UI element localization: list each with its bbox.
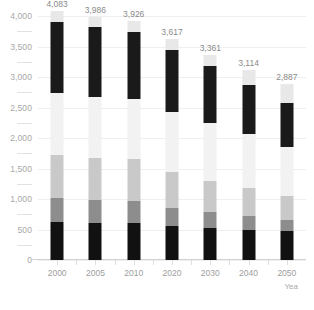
y-tick-minor [17,92,32,93]
bar-value-label: 4,083 [47,0,68,9]
bar-segment[interactable] [280,147,293,196]
bar-segment[interactable] [204,55,217,66]
y-tick-label: 2,500 [10,103,32,113]
bar-segment[interactable] [242,85,255,134]
bar-segment[interactable] [204,228,217,260]
bar-segment[interactable] [204,212,217,228]
bar-segment[interactable] [51,22,64,92]
bar-value-label: 2,887 [276,72,297,82]
bar[interactable] [89,17,102,260]
x-tick-label: 2040 [239,268,258,278]
y-tick-minor [17,123,32,124]
y-tick-label: 1,500 [10,164,32,174]
x-tick-mark-minor [153,260,154,265]
bar-segment[interactable] [89,17,102,27]
bar-segment[interactable] [51,155,64,198]
y-tick-minor [17,62,32,63]
bar-segment[interactable] [127,223,140,260]
bar-segment[interactable] [51,198,64,222]
x-tick-mark [57,260,58,265]
x-tick-mark [95,260,96,265]
bar-value-label: 3,114 [238,58,259,68]
x-axis-title: Yea [285,282,299,291]
plot-area: 4,0833,9863,9263,6173,3613,1142,887 [38,16,306,260]
bar-segment[interactable] [204,66,217,123]
bar-segment[interactable] [89,158,102,200]
bar-segment[interactable] [166,50,179,112]
y-tick-label: 3,500 [10,42,32,52]
bar-segment[interactable] [89,223,102,260]
bar-segment[interactable] [242,188,255,216]
bar-segment[interactable] [166,112,179,172]
bar-segment[interactable] [166,172,179,208]
bar-segment[interactable] [242,230,255,261]
bar-segment[interactable] [89,27,102,97]
bar[interactable] [166,39,179,260]
x-tick-label: 2020 [163,268,182,278]
bar-segment[interactable] [242,216,255,230]
x-tick-mark-minor [268,260,269,265]
bar-segment[interactable] [89,97,102,158]
bar[interactable] [242,70,255,260]
bar-segment[interactable] [280,84,293,103]
x-tick-mark [172,260,173,265]
bar[interactable] [51,11,64,260]
bar-segment[interactable] [166,226,179,260]
bar-segment[interactable] [51,222,64,260]
bar-segment[interactable] [280,196,293,220]
bar-segment[interactable] [127,159,140,200]
bar-segment[interactable] [242,134,255,188]
bar-group[interactable] [127,16,140,260]
bar-segment[interactable] [280,231,293,260]
x-tick-mark-minor [115,260,116,265]
y-tick-minor [17,214,32,215]
y-tick-label: 1,000 [10,194,32,204]
bar-value-label: 3,926 [123,9,144,19]
y-tick-minor [17,153,32,154]
bar-value-label: 3,986 [85,5,106,15]
y-tick-minor [17,184,32,185]
bar-group[interactable] [280,16,293,260]
x-tick-label: 2005 [86,268,105,278]
y-tick-minor [17,245,32,246]
x-tick-mark-minor [191,260,192,265]
y-tick-minor [17,31,32,32]
bar-value-label: 3,617 [161,27,182,37]
bar-segment[interactable] [242,70,255,85]
bar-segment[interactable] [51,11,64,22]
bar[interactable] [280,84,293,260]
y-tick-label: 0 [27,255,32,265]
bar-segment[interactable] [89,200,102,223]
x-tick-mark [210,260,211,265]
x-tick-label: 2030 [201,268,220,278]
bar-segment[interactable] [127,201,140,224]
bar-segment[interactable] [204,123,217,181]
x-tick-mark-minor [76,260,77,265]
bar-group[interactable] [242,16,255,260]
bar[interactable] [204,55,217,260]
bar-segment[interactable] [127,32,140,99]
x-tick-mark [287,260,288,265]
bar-group[interactable] [166,16,179,260]
bar-segment[interactable] [127,99,140,159]
x-tick-label: 2000 [48,268,67,278]
bar[interactable] [127,21,140,260]
y-tick-label: 4,000 [10,11,32,21]
bar-segment[interactable] [280,103,293,147]
bar-segment[interactable] [127,21,140,33]
y-axis: 05001,0001,5002,0002,5003,0003,5004,000 [0,16,36,260]
x-tick-mark-minor [229,260,230,265]
bar-segment[interactable] [51,93,64,156]
stacked-bar-chart: 05001,0001,5002,0002,5003,0003,5004,000 … [0,0,314,310]
y-tick-label: 3,000 [10,72,32,82]
y-tick-label: 500 [18,225,32,235]
bar-segment[interactable] [166,208,179,226]
bar-group[interactable] [89,16,102,260]
bar-segment[interactable] [280,220,293,232]
bar-segment[interactable] [166,39,179,50]
bar-value-label: 3,361 [200,43,221,53]
bar-segment[interactable] [204,181,217,213]
x-axis: Yea 2000200520102020203020402050 [38,260,306,280]
x-tick-mark [249,260,250,265]
bar-group[interactable] [51,16,64,260]
